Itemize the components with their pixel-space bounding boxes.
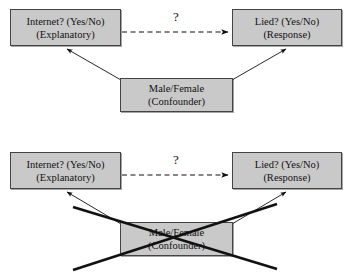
confounder-cross-out — [0, 0, 352, 279]
causal-diagram-figure: Internet? (Yes/No) (Explanatory) Lied? (… — [0, 0, 352, 279]
